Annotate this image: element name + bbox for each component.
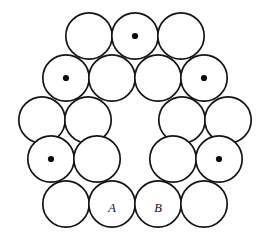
upper-left-circle-center-dot xyxy=(63,75,69,81)
upper-right-circle-center-dot xyxy=(201,75,207,81)
bottom-right-circle xyxy=(181,181,227,227)
top-right-circle xyxy=(158,13,204,59)
upper-inner-left-circle xyxy=(89,55,135,101)
top-left-circle xyxy=(66,13,112,59)
circle-label-b: B xyxy=(154,201,162,215)
circle-label-a: A xyxy=(107,201,116,215)
bottom-left-circle xyxy=(43,181,89,227)
upper-inner-right-circle xyxy=(135,55,181,101)
right-inner-lower-circle xyxy=(150,136,196,182)
circle-packing-figure: AB xyxy=(0,0,270,249)
left-inner-lower-circle xyxy=(74,136,120,182)
circle-packing-canvas: AB xyxy=(0,0,270,249)
top-center-circle-center-dot xyxy=(132,33,138,39)
left-marked-circle-center-dot xyxy=(48,156,54,162)
right-marked-circle-center-dot xyxy=(216,156,222,162)
